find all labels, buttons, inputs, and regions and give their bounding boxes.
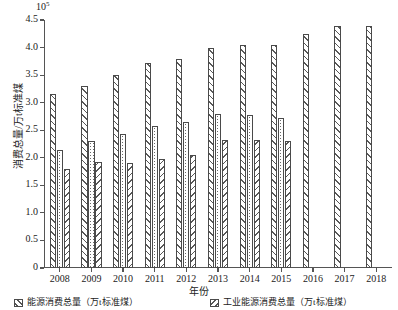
x-axis-tick-label: 2013 — [201, 273, 235, 285]
y-axis-tick-label: 4.0 — [26, 41, 39, 53]
x-axis-tick-mark — [312, 268, 313, 272]
legend-label-industrial-energy: 工业能源消费总量（万t标准煤） — [223, 297, 352, 308]
y-axis-tick-label: 4.5 — [26, 13, 39, 25]
y-axis-tick-label: 0 — [33, 261, 38, 273]
y-axis-tick-label: 2.5 — [26, 123, 39, 135]
legend-swatch-total-energy-icon — [14, 299, 23, 307]
x-axis-tick-mark — [91, 268, 92, 272]
y-axis-tick-label: 0.5 — [26, 233, 39, 245]
y-axis-multiplier-exponent: 5 — [46, 0, 50, 8]
x-axis-tick-mark — [217, 268, 218, 272]
y-axis-tick-label: 3.0 — [26, 96, 39, 108]
x-axis-tick-label: 2018 — [359, 273, 393, 285]
energy-consumption-bar-chart: 105 00.51.01.52.02.53.03.54.04.5 2008200… — [0, 0, 398, 310]
x-axis-tick-label: 2017 — [328, 273, 362, 285]
x-axis-tick-label: 2010 — [106, 273, 140, 285]
bar-2017-series-1 — [334, 26, 340, 268]
y-axis-tick-label: 3.5 — [26, 68, 39, 80]
x-axis-tick-mark — [122, 268, 123, 272]
bar-2011-series-1 — [145, 63, 151, 268]
y-axis-tick-label: 1.0 — [26, 206, 39, 218]
x-axis-tick-mark — [376, 268, 377, 272]
y-axis-multiplier: 105 — [36, 0, 50, 12]
y-axis-tick-label: 1.5 — [26, 178, 39, 190]
legend-label-total-energy: 能源消费总量（万t标准煤） — [27, 297, 138, 308]
bar-2015-series-3 — [285, 141, 291, 268]
legend-swatch-industrial-energy-icon — [210, 299, 219, 307]
x-axis-tick-label: 2008 — [43, 273, 77, 285]
bar-2014-series-2 — [247, 115, 253, 268]
x-axis-tick-mark — [344, 268, 345, 272]
x-axis-tick-label: 2009 — [74, 273, 108, 285]
bar-2008-series-2 — [57, 150, 63, 268]
y-axis-multiplier-base: 10 — [36, 1, 46, 12]
x-axis-tick-label: 2015 — [264, 273, 298, 285]
bar-2012-series-2 — [183, 122, 189, 268]
bar-2010-series-1 — [113, 75, 119, 268]
x-axis-tick-label: 2011 — [138, 273, 172, 285]
bar-2018-series-1 — [366, 26, 372, 268]
bar-2011-series-3 — [159, 159, 165, 268]
bar-2010-series-2 — [120, 134, 126, 268]
bar-2012-series-1 — [176, 59, 182, 268]
x-axis-tick-label: 2016 — [296, 273, 330, 285]
x-axis-tick-mark — [281, 268, 282, 272]
bar-2016-series-1 — [303, 34, 309, 268]
bar-2008-series-1 — [50, 94, 56, 268]
y-axis-title: 消费总量/万t标准煤 — [13, 61, 25, 191]
bar-2009-series-1 — [81, 86, 87, 268]
bar-2013-series-1 — [208, 48, 214, 268]
bar-2012-series-3 — [190, 155, 196, 268]
legend-entry-industrial-energy: 工业能源消费总量（万t标准煤） — [210, 297, 352, 308]
x-axis-tick-mark — [186, 268, 187, 272]
bars-layer — [44, 20, 392, 268]
x-axis-tick-mark — [154, 268, 155, 272]
legend-entry-total-energy: 能源消费总量（万t标准煤） — [14, 297, 138, 308]
bar-2015-series-2 — [278, 118, 284, 268]
bar-2008-series-3 — [64, 169, 70, 268]
x-axis-tick-mark — [249, 268, 250, 272]
bar-2009-series-2 — [88, 141, 94, 268]
bar-2010-series-3 — [127, 163, 133, 268]
x-axis-tick-label: 2012 — [169, 273, 203, 285]
bar-2009-series-3 — [95, 162, 101, 268]
y-axis-tick-label: 2.0 — [26, 151, 39, 163]
bar-2014-series-1 — [240, 45, 246, 268]
bar-2015-series-1 — [271, 45, 277, 268]
bar-2011-series-2 — [152, 126, 158, 268]
bar-2014-series-3 — [254, 140, 260, 268]
chart-legend: 能源消费总量（万t标准煤） 工业能源消费总量（万t标准煤） — [0, 297, 398, 310]
x-axis-tick-label: 2014 — [233, 273, 267, 285]
x-axis-tick-mark — [59, 268, 60, 272]
bar-2013-series-3 — [222, 140, 228, 268]
bar-2013-series-2 — [215, 114, 221, 268]
